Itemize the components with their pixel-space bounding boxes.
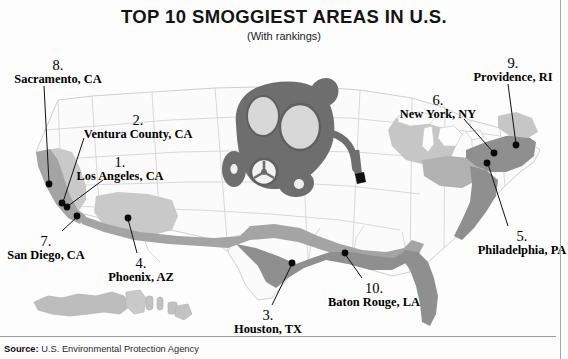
- hawaii-inset: [146, 296, 192, 320]
- bottom-canister-cap: [294, 179, 304, 189]
- right-lens: [280, 104, 320, 150]
- callout-place-new-york: New York, NY: [400, 108, 476, 121]
- source-label: Source:: [4, 344, 39, 354]
- map-marker-sacramento[interactable]: [46, 181, 53, 188]
- callout-place-baton-rouge: Baton Rouge, LA: [328, 296, 420, 309]
- map-marker-baton-rouge[interactable]: [342, 250, 349, 257]
- hawaii-island-4: [175, 304, 192, 320]
- callout-los-angeles: 1.Los Angeles, CA: [76, 155, 163, 182]
- hawaii-island-2: [157, 297, 163, 310]
- map-marker-houston[interactable]: [289, 260, 296, 267]
- callout-rank-sacramento: 8.: [14, 58, 101, 73]
- callout-sacramento: 8.Sacramento, CA: [14, 58, 101, 85]
- callout-rank-philadelphia: 5.: [478, 229, 567, 244]
- alaska-inset: [34, 290, 146, 316]
- callout-san-diego: 7.San Diego, CA: [7, 234, 84, 261]
- page-subtitle: (With rankings): [0, 30, 568, 42]
- callout-rank-providence: 9.: [474, 56, 553, 71]
- leader-line-san-diego: [62, 217, 77, 231]
- page-title: TOP 10 SMOGGIEST AREAS IN U.S.: [0, 6, 568, 28]
- callout-rank-houston: 3.: [234, 308, 302, 323]
- callout-place-phoenix: Phoenix, AZ: [108, 271, 173, 284]
- hose-tip: [355, 172, 366, 184]
- callout-new-york: 6.New York, NY: [400, 93, 476, 120]
- footer-divider: [0, 336, 556, 337]
- side-canister-cap: [230, 164, 237, 174]
- callout-houston: 3.Houston, TX: [234, 308, 302, 335]
- source-line: Source: U.S. Environmental Protection Ag…: [4, 344, 199, 354]
- map-marker-phoenix[interactable]: [125, 215, 132, 222]
- infographic-page: TOP 10 SMOGGIEST AREAS IN U.S. (With ran…: [0, 0, 568, 359]
- left-lens: [247, 96, 279, 136]
- callout-rank-phoenix: 4.: [108, 256, 173, 271]
- callout-baton-rouge: 10.Baton Rouge, LA: [328, 281, 420, 308]
- callout-rank-new-york: 6.: [400, 93, 476, 108]
- callout-rank-los-angeles: 1.: [76, 155, 163, 170]
- callout-phoenix: 4.Phoenix, AZ: [108, 256, 173, 283]
- callout-ventura-county: 2.Ventura County, CA: [84, 113, 193, 140]
- breathing-hose-lower: [356, 150, 359, 176]
- callout-rank-ventura-county: 2.: [84, 113, 193, 128]
- right-border-rule: [560, 0, 561, 359]
- source-text: U.S. Environmental Protection Agency: [41, 344, 199, 354]
- callout-place-houston: Houston, TX: [234, 323, 302, 336]
- hawaii-island-1: [146, 296, 153, 310]
- map-marker-san-diego[interactable]: [74, 213, 81, 220]
- callout-rank-san-diego: 7.: [7, 234, 84, 249]
- callout-place-providence: Providence, RI: [474, 71, 553, 84]
- callout-place-los-angeles: Los Angeles, CA: [76, 170, 163, 183]
- callout-providence: 9.Providence, RI: [474, 56, 553, 83]
- map-marker-philadelphia[interactable]: [484, 160, 491, 167]
- callout-place-san-diego: San Diego, CA: [7, 249, 84, 262]
- callout-place-philadelphia: Philadelphia, PA: [478, 244, 567, 257]
- map-marker-providence[interactable]: [513, 142, 520, 149]
- callout-philadelphia: 5.Philadelphia, PA: [478, 229, 567, 256]
- callout-place-sacramento: Sacramento, CA: [14, 73, 101, 86]
- map-marker-ventura-county[interactable]: [59, 200, 66, 207]
- callout-place-ventura-county: Ventura County, CA: [84, 128, 193, 141]
- callout-rank-baton-rouge: 10.: [328, 281, 420, 296]
- map-marker-new-york[interactable]: [491, 150, 498, 157]
